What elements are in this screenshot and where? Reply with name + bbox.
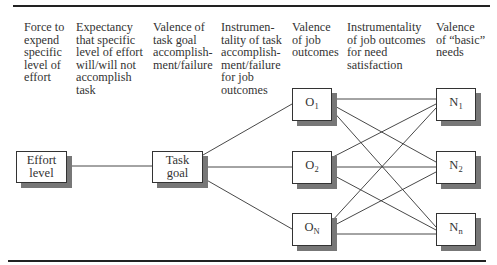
node-o1: O1 bbox=[292, 88, 332, 121]
node-o2: O2 bbox=[292, 151, 332, 184]
node-n1: N1 bbox=[436, 88, 476, 121]
edge-task-o1 bbox=[203, 104, 292, 155]
edge-task-on bbox=[203, 178, 292, 229]
node-effort-label: Effort level bbox=[27, 154, 57, 180]
edge-on-n1 bbox=[331, 108, 436, 222]
edge-o2-nn bbox=[331, 174, 436, 230]
node-task-label: Task goal bbox=[166, 154, 189, 180]
edge-o1-nn bbox=[331, 109, 436, 227]
node-effort-level: Effort level bbox=[16, 151, 67, 183]
connection-lines bbox=[0, 0, 497, 265]
node-o2-sub: 2 bbox=[314, 164, 318, 174]
node-task-goal: Task goal bbox=[152, 151, 203, 183]
node-nn-sub: n bbox=[458, 226, 462, 236]
edge-on-n2 bbox=[331, 172, 436, 227]
node-n1-sub: 1 bbox=[458, 101, 462, 111]
edge-o1-n2 bbox=[331, 104, 436, 162]
node-o1-sub: 1 bbox=[314, 101, 318, 111]
node-nn: Nn bbox=[436, 213, 476, 246]
node-n2-sub: 2 bbox=[458, 164, 462, 174]
node-on-sub: N bbox=[313, 226, 319, 236]
edge-o2-n1 bbox=[331, 104, 436, 158]
node-on: ON bbox=[292, 213, 332, 246]
node-n2: N2 bbox=[436, 151, 476, 184]
